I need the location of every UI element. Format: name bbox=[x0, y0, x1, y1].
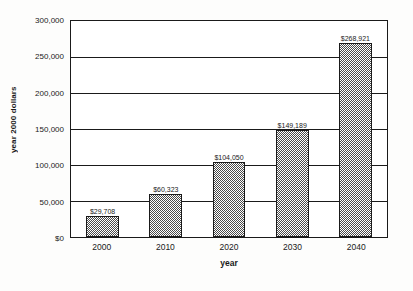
x-axis-tick-label: 2010 bbox=[134, 242, 198, 252]
bar[interactable]: $268,921 bbox=[339, 43, 372, 237]
bar[interactable]: $60,323 bbox=[149, 194, 182, 237]
x-axis-tick-labels: 20002010202020302040 bbox=[70, 242, 388, 252]
y-axis-tick-label: 200,000 bbox=[35, 88, 64, 97]
bar-slot: $104,050 bbox=[197, 21, 260, 237]
bar[interactable]: $29,708 bbox=[86, 216, 119, 237]
bar[interactable]: $149,189 bbox=[276, 130, 309, 237]
bar-value-label: $268,921 bbox=[341, 35, 370, 42]
y-axis-tick-label: 150,000 bbox=[35, 125, 64, 134]
x-axis-tick-label: 2000 bbox=[70, 242, 134, 252]
bar-value-label: $60,323 bbox=[153, 186, 178, 193]
plot-area: $29,708$60,323$104,050$149,189$268,921 bbox=[70, 20, 388, 238]
y-axis-tick-label: 50,000 bbox=[40, 197, 64, 206]
x-axis-tick-label: 2040 bbox=[324, 242, 388, 252]
y-axis-tick-labels: $050,000100,000150,000200,000250,000300,… bbox=[18, 20, 68, 238]
y-axis-tick-label: $0 bbox=[55, 234, 64, 243]
bar-chart-figure: year 2000 dollars $050,000100,000150,000… bbox=[0, 0, 413, 291]
y-axis-tick-label: 250,000 bbox=[35, 52, 64, 61]
bar[interactable]: $104,050 bbox=[213, 162, 246, 237]
y-axis-tick-label: 300,000 bbox=[35, 16, 64, 25]
x-axis-title: year bbox=[70, 258, 388, 268]
x-axis-tick-label: 2030 bbox=[261, 242, 325, 252]
y-axis-tick-label: 100,000 bbox=[35, 161, 64, 170]
bar-value-label: $104,050 bbox=[214, 154, 243, 161]
bar-slot: $60,323 bbox=[134, 21, 197, 237]
x-axis-tick-label: 2020 bbox=[197, 242, 261, 252]
bar-slot: $149,189 bbox=[261, 21, 324, 237]
bars-container: $29,708$60,323$104,050$149,189$268,921 bbox=[71, 21, 387, 237]
bar-slot: $268,921 bbox=[324, 21, 387, 237]
bar-slot: $29,708 bbox=[71, 21, 134, 237]
bar-value-label: $149,189 bbox=[278, 122, 307, 129]
bar-value-label: $29,708 bbox=[90, 208, 115, 215]
